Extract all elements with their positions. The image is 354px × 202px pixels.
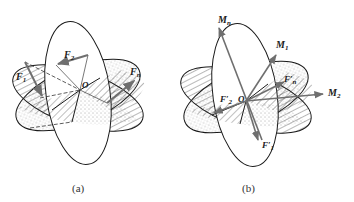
panel-b: Mn M1 M2 F′n F′2 F′1 O (b) [173,14,341,195]
label-m1-b: M1 [275,39,288,52]
label-origin-b: O [238,94,245,104]
label-m2-b: M2 [327,87,341,100]
label-mn-b: Mn [217,14,231,27]
caption-a: (a) [72,182,85,195]
caption-b: (b) [242,182,255,195]
panel-a: F2 F1 Fn O (a) [5,17,151,195]
diagram-canvas: F2 F1 Fn O (a) [0,0,354,202]
label-origin-a: O [82,80,89,90]
